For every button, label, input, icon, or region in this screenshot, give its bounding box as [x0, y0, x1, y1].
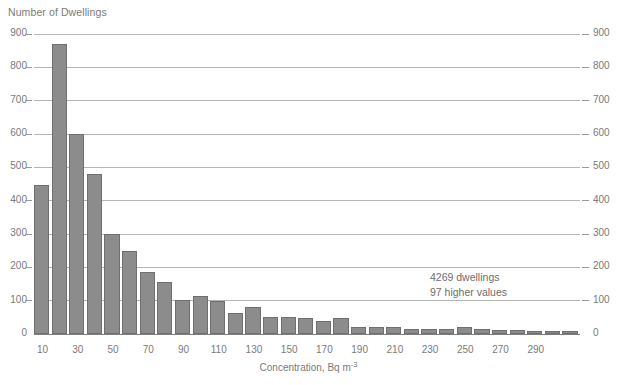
y-tick-label-left-400: 400: [3, 194, 27, 205]
x-tick-label-110: 110: [199, 344, 239, 355]
bar: [474, 329, 489, 334]
y-tick-label-left-500: 500: [3, 160, 27, 171]
bar: [281, 317, 296, 334]
x-tick-label-10: 10: [23, 344, 63, 355]
y-tick-label-right-500: 500: [593, 160, 610, 171]
y-tick-mark-right-900: [582, 34, 589, 35]
bar: [175, 300, 190, 334]
x-tick-label-290: 290: [516, 344, 556, 355]
y-tick-mark-right-400: [582, 200, 589, 201]
y-tick-label-left-700: 700: [3, 94, 27, 105]
bar: [69, 134, 84, 334]
bar: [52, 44, 67, 334]
y-tick-mark-right-500: [582, 167, 589, 168]
y-tick-mark-right-300: [582, 234, 589, 235]
y-tick-label-left-200: 200: [3, 260, 27, 271]
y-tick-mark-right-800: [582, 67, 589, 68]
x-tick-label-90: 90: [164, 344, 204, 355]
y-tick-mark-right-200: [582, 267, 589, 268]
y-tick-label-right-600: 600: [593, 127, 610, 138]
bar: [263, 317, 278, 334]
y-tick-label-left-100: 100: [3, 294, 27, 305]
y-tick-mark-right-100: [582, 300, 589, 301]
bar: [351, 327, 366, 334]
x-tick-label-50: 50: [93, 344, 133, 355]
bar: [492, 330, 507, 334]
gridline-800: [34, 67, 580, 68]
gridline-500: [34, 167, 580, 168]
y-tick-label-left-900: 900: [3, 27, 27, 38]
x-tick-label-130: 130: [234, 344, 274, 355]
bar: [87, 174, 102, 334]
gridline-400: [34, 200, 580, 201]
x-axis-title-exponent: -3: [351, 360, 358, 369]
gridline-0: [34, 334, 580, 335]
x-tick-label-210: 210: [375, 344, 415, 355]
x-axis-title: Concentration, Bq m-3: [0, 362, 617, 373]
y-tick-mark-left-800: [25, 67, 32, 68]
y-tick-mark-right-600: [582, 134, 589, 135]
bar: [510, 330, 525, 334]
gridline-600: [34, 134, 580, 135]
y-axis-title: Number of Dwellings: [8, 6, 107, 18]
bar: [34, 185, 49, 334]
radon-concentration-histogram: Number of Dwellings 01002003004005006007…: [0, 0, 617, 385]
y-tick-label-left-0: 0: [3, 327, 27, 338]
bar: [369, 327, 384, 334]
gridline-900: [34, 34, 580, 35]
bar: [157, 282, 172, 334]
y-tick-mark-right-700: [582, 100, 589, 101]
y-tick-label-right-200: 200: [593, 260, 610, 271]
y-tick-label-right-800: 800: [593, 60, 610, 71]
y-tick-label-left-800: 800: [3, 60, 27, 71]
bar: [439, 329, 454, 334]
x-axis-title-text: Concentration, Bq m: [260, 362, 351, 373]
x-tick-label-150: 150: [269, 344, 309, 355]
y-tick-label-right-100: 100: [593, 294, 610, 305]
y-tick-mark-left-600: [25, 134, 32, 135]
y-tick-mark-left-300: [25, 234, 32, 235]
bar: [527, 331, 542, 334]
bar: [140, 272, 155, 334]
bar: [228, 313, 243, 334]
annotation-block: 4269 dwellings 97 higher values: [430, 270, 507, 300]
bar: [333, 318, 348, 334]
bar: [122, 251, 137, 334]
y-tick-mark-left-700: [25, 100, 32, 101]
y-tick-label-right-0: 0: [593, 327, 599, 338]
x-tick-label-250: 250: [445, 344, 485, 355]
x-tick-label-30: 30: [58, 344, 98, 355]
y-tick-mark-left-100: [25, 300, 32, 301]
x-tick-label-190: 190: [340, 344, 380, 355]
y-tick-label-left-300: 300: [3, 227, 27, 238]
y-tick-label-left-600: 600: [3, 127, 27, 138]
gridline-700: [34, 100, 580, 101]
y-tick-mark-left-900: [25, 34, 32, 35]
annotation-line-2: 97 higher values: [430, 285, 507, 300]
bar: [545, 331, 560, 334]
bar: [457, 327, 472, 334]
bar: [316, 321, 331, 334]
bar: [210, 301, 225, 334]
x-tick-label-270: 270: [481, 344, 521, 355]
y-tick-label-right-300: 300: [593, 227, 610, 238]
bar: [193, 296, 208, 334]
bar: [245, 307, 260, 334]
x-tick-label-70: 70: [128, 344, 168, 355]
bar: [404, 329, 419, 334]
bar: [562, 331, 577, 334]
y-tick-label-right-900: 900: [593, 27, 610, 38]
x-tick-label-230: 230: [410, 344, 450, 355]
bar: [386, 327, 401, 334]
bar: [421, 329, 436, 334]
y-tick-label-right-400: 400: [593, 194, 610, 205]
y-tick-mark-left-200: [25, 267, 32, 268]
y-tick-mark-left-500: [25, 167, 32, 168]
bar: [298, 318, 313, 334]
x-tick-label-170: 170: [304, 344, 344, 355]
y-tick-mark-left-400: [25, 200, 32, 201]
y-tick-label-right-700: 700: [593, 94, 610, 105]
bar: [104, 234, 119, 334]
annotation-line-1: 4269 dwellings: [430, 270, 507, 285]
